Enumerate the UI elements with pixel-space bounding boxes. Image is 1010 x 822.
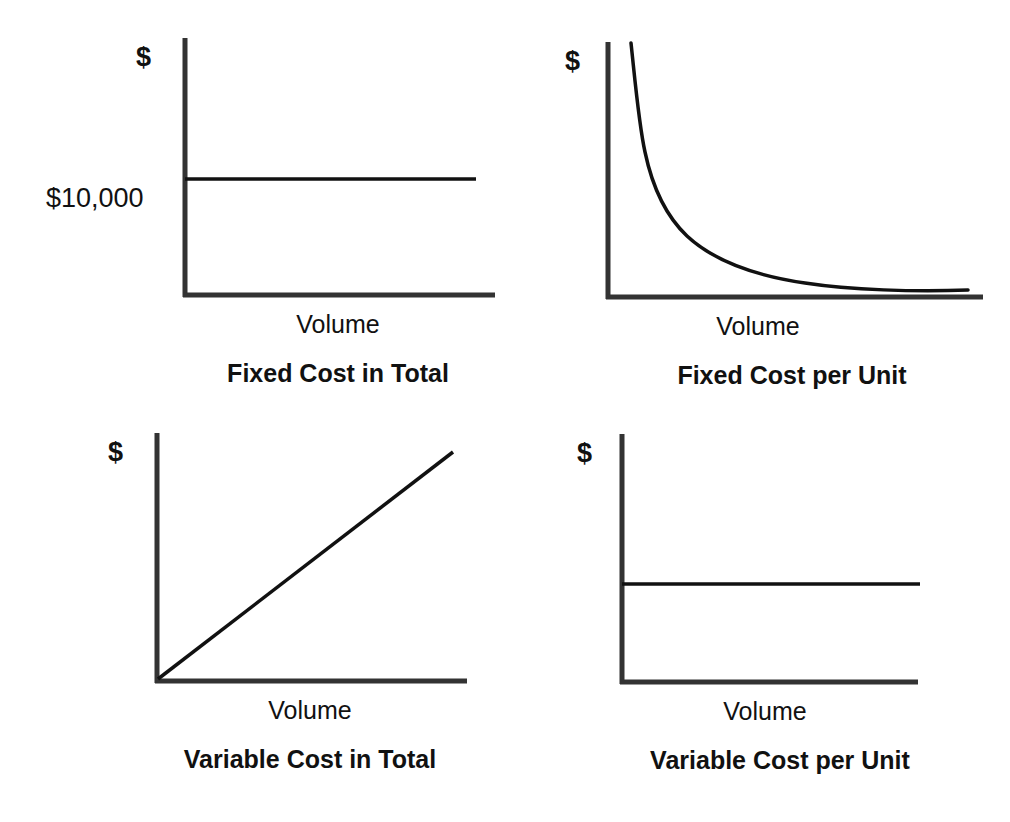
- fixed-cost-value-label: $10,000: [46, 185, 144, 212]
- panel-caption: Variable Cost in Total: [184, 747, 436, 772]
- panel-variable-cost-per-unit: $ Volume Variable Cost per Unit: [505, 411, 1010, 822]
- panel-fixed-cost-per-unit: $ Volume Fixed Cost per Unit: [505, 0, 1010, 411]
- panel-caption: Fixed Cost in Total: [227, 361, 449, 386]
- x-axis-title: Volume: [723, 699, 806, 724]
- y-axis-unit-label: $: [565, 48, 580, 75]
- x-axis-title: Volume: [268, 698, 351, 723]
- y-axis-unit-label: $: [136, 44, 151, 71]
- cost-behavior-figure: $ $10,000 Volume Fixed Cost in Total $ V…: [0, 0, 1010, 822]
- panel-variable-cost-in-total: $ Volume Variable Cost in Total: [0, 411, 505, 822]
- chart-fixed-cost-per-unit: [505, 0, 1010, 411]
- panel-caption: Variable Cost per Unit: [650, 748, 910, 773]
- panel-caption: Fixed Cost per Unit: [677, 363, 906, 388]
- panel-fixed-cost-in-total: $ $10,000 Volume Fixed Cost in Total: [0, 0, 505, 411]
- fixed-cost-per-unit-series: [631, 43, 968, 291]
- x-axis-title: Volume: [716, 314, 799, 339]
- y-axis-unit-label: $: [108, 439, 123, 466]
- x-axis-title: Volume: [296, 312, 379, 337]
- variable-cost-total-series: [158, 452, 453, 679]
- y-axis-unit-label: $: [577, 440, 592, 467]
